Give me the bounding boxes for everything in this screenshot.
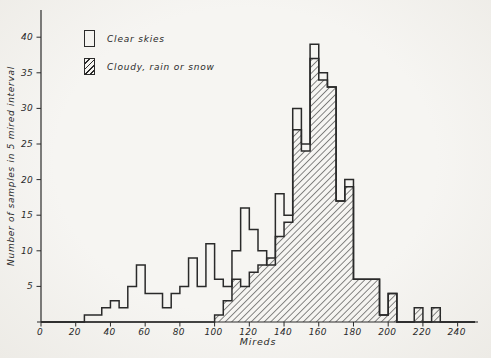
y-tick-label: 10 [21, 246, 33, 256]
x-axis-title: Mireds [240, 336, 276, 347]
x-tick-label: 120 [239, 327, 257, 337]
x-tick-label: 60 [138, 327, 150, 337]
x-tick-label: 40 [103, 327, 115, 337]
x-tick-label: 180 [343, 327, 361, 337]
x-tick-label: 140 [274, 327, 292, 337]
histogram-svg: 0204060801001201401601802002202405101520… [0, 0, 491, 358]
y-axis-title: Number of samples in 5 mired interval [6, 66, 16, 266]
legend-item-clear: Clear skies [84, 30, 215, 47]
y-tick-label: 35 [21, 68, 33, 78]
figure: 0204060801001201401601802002202405101520… [0, 0, 491, 358]
y-tick-label: 40 [21, 32, 33, 42]
y-tick-label: 20 [21, 175, 33, 185]
x-tick-label: 20 [69, 327, 81, 337]
legend-label-cloudy: Cloudy, rain or snow [107, 62, 215, 72]
y-tick-label: 25 [21, 139, 33, 149]
legend: Clear skies Cloudy, rain or snow [84, 30, 215, 86]
legend-swatch-clear [84, 30, 95, 47]
x-tick-label: 0 [37, 327, 43, 337]
x-tick-label: 240 [448, 327, 466, 337]
legend-swatch-hatched [84, 58, 95, 75]
y-tick-label: 30 [21, 103, 33, 113]
y-tick-label: 15 [21, 210, 33, 220]
x-tick-label: 160 [309, 327, 327, 337]
x-tick-label: 200 [378, 327, 396, 337]
legend-item-cloudy: Cloudy, rain or snow [84, 58, 215, 75]
x-tick-label: 220 [413, 327, 431, 337]
cloudy-hatched-fill [41, 59, 475, 322]
legend-label-clear: Clear skies [107, 34, 165, 44]
x-tick-label: 80 [173, 327, 185, 337]
x-tick-label: 100 [205, 327, 223, 337]
y-tick-label: 5 [27, 281, 33, 291]
